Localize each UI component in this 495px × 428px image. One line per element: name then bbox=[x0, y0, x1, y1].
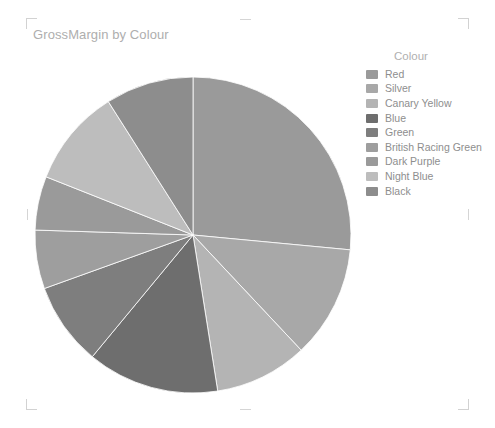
legend-title: Colour bbox=[394, 50, 494, 62]
legend-item-label: Green bbox=[385, 127, 414, 138]
pie-plot-area[interactable] bbox=[0, 0, 380, 428]
legend-item[interactable]: Canary Yellow bbox=[366, 96, 494, 111]
legend-item[interactable]: Black bbox=[366, 184, 494, 199]
legend-swatch-icon bbox=[366, 99, 378, 108]
legend-swatch-icon bbox=[366, 70, 378, 79]
legend-swatch-icon bbox=[366, 157, 378, 166]
legend-item-label: British Racing Green bbox=[385, 142, 482, 153]
selection-handle-right[interactable] bbox=[468, 209, 469, 220]
legend-item-label: Red bbox=[385, 69, 404, 80]
legend-swatch-icon bbox=[366, 143, 378, 152]
legend-item-label: Dark Purple bbox=[385, 156, 440, 167]
pie-svg bbox=[0, 0, 380, 428]
legend-item[interactable]: Silver bbox=[366, 82, 494, 97]
legend-item-label: Black bbox=[385, 186, 411, 197]
selection-handle-bottom-right[interactable] bbox=[458, 399, 469, 410]
pie-slice[interactable] bbox=[193, 77, 351, 250]
legend-item-label: Canary Yellow bbox=[385, 98, 452, 109]
legend-item[interactable]: Red bbox=[366, 67, 494, 82]
legend-item-label: Blue bbox=[385, 113, 406, 124]
pie-slices[interactable] bbox=[35, 77, 351, 393]
legend-item-label: Night Blue bbox=[385, 171, 433, 182]
legend[interactable]: Colour RedSilverCanary YellowBlueGreenBr… bbox=[366, 50, 494, 198]
legend-swatch-icon bbox=[366, 114, 378, 123]
legend-items[interactable]: RedSilverCanary YellowBlueGreenBritish R… bbox=[366, 67, 494, 198]
legend-item[interactable]: Blue bbox=[366, 111, 494, 126]
legend-swatch-icon bbox=[366, 128, 378, 137]
legend-item-label: Silver bbox=[385, 83, 411, 94]
selection-handle-top-right[interactable] bbox=[458, 18, 469, 29]
legend-swatch-icon bbox=[366, 84, 378, 93]
legend-item[interactable]: Dark Purple bbox=[366, 155, 494, 170]
legend-swatch-icon bbox=[366, 187, 378, 196]
legend-item[interactable]: Green bbox=[366, 125, 494, 140]
pie-chart-visual[interactable]: GrossMargin by Colour Colour RedSilverCa… bbox=[0, 0, 495, 428]
legend-item[interactable]: British Racing Green bbox=[366, 140, 494, 155]
legend-swatch-icon bbox=[366, 172, 378, 181]
legend-item[interactable]: Night Blue bbox=[366, 169, 494, 184]
